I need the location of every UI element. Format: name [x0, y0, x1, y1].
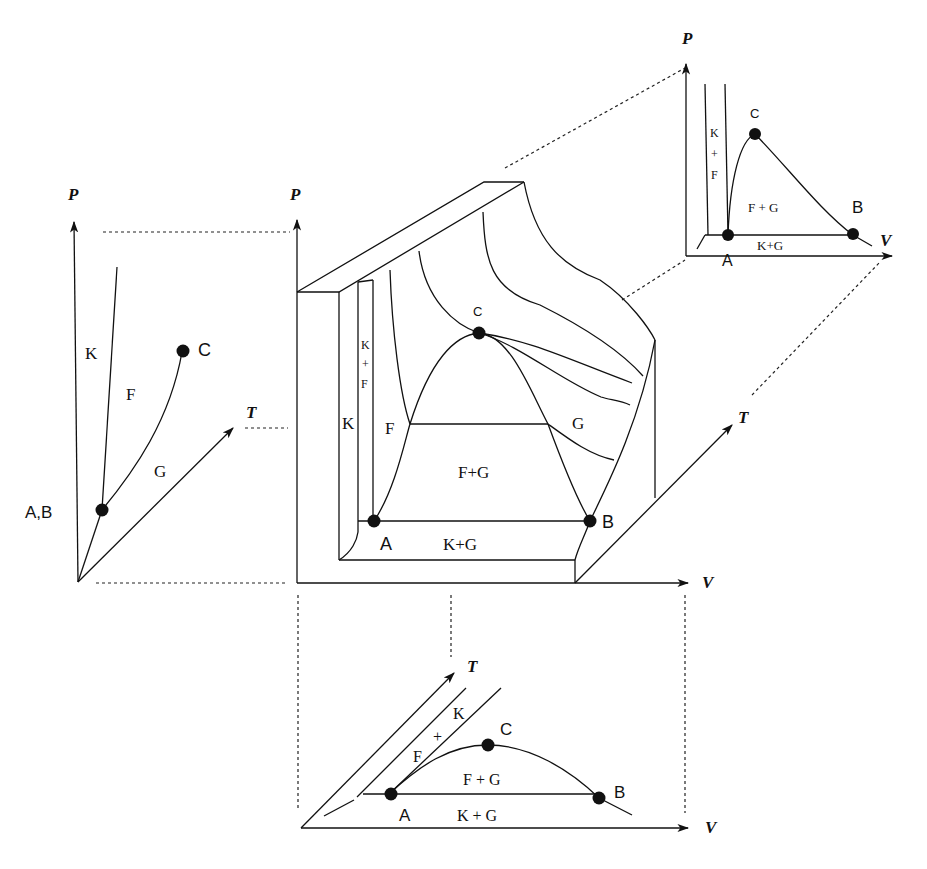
pv-corner — [697, 235, 705, 249]
tv-v-axis-label: V — [705, 818, 718, 837]
tv-region-sl-f: F — [413, 748, 422, 765]
pv-saturated-liquid — [728, 134, 755, 235]
tv-region-sl-plus: + — [433, 728, 442, 745]
pvt-region-sl-f: F — [361, 377, 368, 391]
pvt-v-axis-label: V — [702, 573, 715, 592]
pt-region-solid-label: K — [85, 344, 98, 363]
guide-t-right — [752, 262, 880, 395]
pt-triple-point-label: A,B — [25, 503, 52, 522]
pvt-region-solid-label: K — [342, 414, 355, 433]
pt-vaporization-curve — [102, 352, 182, 510]
tv-t-axis — [301, 673, 454, 828]
pv-point-a-label: A — [722, 252, 733, 269]
solid-gas-corner-curve — [339, 532, 358, 560]
tv-point-b-label: B — [614, 783, 625, 802]
tv-solid-liquid-left — [357, 688, 466, 797]
pv-point-b — [847, 228, 859, 240]
pv-region-sl-plus: + — [711, 147, 718, 161]
tv-point-a — [385, 788, 398, 801]
pvt-p-axis-label: P — [289, 185, 301, 204]
pvt-t-axis-label: T — [738, 408, 749, 427]
tv-region-liquid-gas-label: F + G — [463, 771, 501, 788]
surface-top-back-edge — [297, 182, 524, 292]
isotherm-critical-right — [479, 333, 632, 383]
tv-coexistence-curve — [388, 745, 632, 815]
tv-critical-point-label: C — [500, 720, 512, 739]
surface-top-front-edge — [297, 182, 524, 292]
pt-sublimation-curve — [78, 510, 102, 582]
pt-t-axis-label: T — [246, 403, 257, 422]
pv-solid-liquid-left — [705, 84, 708, 235]
pt-projection-panel: P T K F G A,B C — [25, 185, 257, 582]
pvt-region-liquid-gas-label: F+G — [458, 463, 489, 482]
tv-t-axis-label: T — [467, 657, 478, 676]
pt-region-gas-label: G — [154, 462, 166, 481]
pvt-region-gas-label: G — [572, 414, 584, 433]
tv-region-sl-k: K — [453, 705, 465, 722]
pt-p-axis-label: P — [67, 185, 79, 204]
pt-region-liquid-label: F — [126, 385, 135, 404]
solid-liquid-top-edge — [358, 280, 373, 282]
isotherm-liquid — [390, 270, 410, 424]
pvt-region-sl-plus: + — [362, 357, 369, 371]
tv-region-solid-gas-label: K + G — [457, 807, 498, 824]
pt-triple-point — [96, 504, 109, 517]
pv-p-axis-label: P — [681, 29, 693, 48]
phase-diagram-canvas: P T K F G A,B C P V T — [0, 0, 927, 869]
pvt-surface-panel: P V T K K — [289, 182, 749, 592]
isotherm-high-2 — [524, 182, 655, 340]
tv-left-fragment — [324, 800, 354, 816]
pt-melting-curve — [102, 267, 117, 510]
isotherm-high-1 — [483, 212, 643, 376]
pv-solid-liquid-right — [725, 84, 728, 235]
pv-point-a — [722, 229, 734, 241]
pvt-critical-point-label: C — [473, 304, 482, 319]
pv-v-axis-label: V — [880, 231, 893, 250]
pvt-region-sl-k: K — [361, 338, 370, 352]
pvt-point-a — [368, 515, 381, 528]
pv-critical-point-label: C — [750, 106, 759, 121]
pt-critical-point-label: C — [198, 340, 211, 360]
pvt-critical-point — [473, 327, 486, 340]
pvt-region-liquid-label: F — [385, 419, 394, 438]
pv-point-b-label: B — [852, 198, 863, 217]
pv-projection-panel: P V K + F F + G K+G A B C — [681, 29, 893, 269]
pvt-point-b — [584, 515, 597, 528]
tv-critical-point — [482, 739, 495, 752]
pt-p-axis — [74, 222, 78, 582]
pv-region-sl-k: K — [710, 126, 719, 140]
pvt-region-solid-gas-label: K+G — [443, 535, 477, 554]
pvt-point-a-label: A — [380, 534, 392, 554]
pv-critical-point — [749, 128, 761, 140]
pvt-point-b-label: B — [602, 512, 614, 532]
isotherm-critical-left — [419, 251, 479, 333]
pv-region-sl-f: F — [711, 168, 718, 182]
tv-point-b — [593, 792, 606, 805]
pv-region-solid-gas-label: K+G — [757, 238, 783, 253]
tv-point-a-label: A — [399, 806, 411, 825]
pv-region-liquid-gas-label: F + G — [748, 200, 778, 215]
guide-top-right — [505, 68, 685, 168]
guide-mid-right — [622, 260, 685, 300]
pt-critical-point — [177, 345, 190, 358]
tv-projection-panel: V T K + F F + G K + G A B C — [301, 657, 718, 837]
